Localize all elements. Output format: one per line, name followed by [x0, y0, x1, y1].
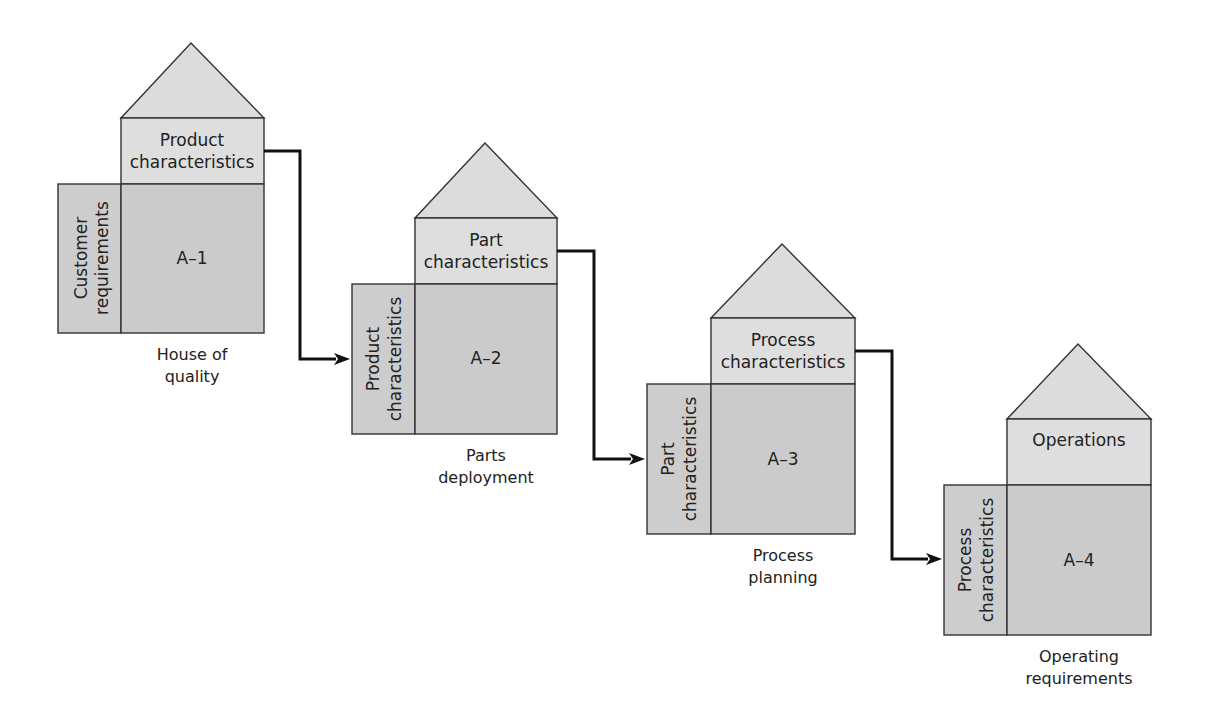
- house-a3-caption-1: Process: [753, 546, 814, 565]
- house-a2-top-label-1: Part: [469, 230, 503, 250]
- arrowhead-icon: [629, 453, 645, 465]
- connector-line: [855, 351, 928, 559]
- house-a3-side-label-1: Part: [658, 442, 678, 476]
- house-a1: Product characteristics A–1 Customer req…: [58, 43, 264, 386]
- house-a3-top-label-2: characteristics: [721, 352, 846, 372]
- house-a2-side-label-2: characteristics: [385, 297, 405, 422]
- house-a4: Operations A–4 Process characteristics O…: [944, 344, 1151, 688]
- connector-a3-a4: [855, 351, 942, 565]
- house-a4-top-box: [1007, 419, 1151, 485]
- house-a2-top-box: [415, 218, 557, 284]
- house-a4-matrix-label: A–4: [1064, 550, 1095, 570]
- house-a3: Process characteristics A–3 Part charact…: [647, 244, 855, 587]
- house-a1-caption-1: House of: [157, 345, 228, 364]
- house-a1-top-label-2: characteristics: [130, 152, 255, 172]
- house-a2-top-label-2: characteristics: [424, 252, 549, 272]
- house-a1-roof: [121, 43, 264, 118]
- arrowhead-icon: [926, 553, 942, 565]
- house-a2-caption-1: Parts: [466, 446, 506, 465]
- house-a1-matrix-label: A–1: [177, 248, 208, 268]
- house-a3-side-label-2: characteristics: [680, 397, 700, 522]
- house-a2: Part characteristics A–2 Product charact…: [352, 143, 557, 487]
- house-a1-top-box: [121, 118, 264, 184]
- qfd-diagram: Product characteristics A–1 Customer req…: [0, 0, 1210, 719]
- connector-a2-a3: [557, 251, 645, 465]
- house-a2-roof: [415, 143, 557, 218]
- house-a4-side-label-1: Process: [955, 528, 975, 593]
- house-a3-caption-2: planning: [748, 568, 817, 587]
- house-a2-side-box: [352, 284, 415, 434]
- house-a2-caption-2: deployment: [438, 468, 534, 487]
- arrowhead-icon: [334, 353, 350, 365]
- house-a3-side-box: [647, 384, 711, 534]
- connector-line: [264, 151, 336, 359]
- house-a4-caption-2: requirements: [1025, 669, 1132, 688]
- house-a4-side-label-2: characteristics: [977, 498, 997, 623]
- house-a1-side-label-1: Customer: [71, 217, 91, 300]
- house-a4-roof: [1007, 344, 1151, 419]
- house-a3-matrix-label: A–3: [768, 449, 799, 469]
- connector-line: [557, 251, 631, 459]
- house-a2-side-label-1: Product: [363, 326, 383, 391]
- house-a1-top-label-1: Product: [160, 130, 225, 150]
- house-a1-caption-2: quality: [165, 367, 220, 386]
- house-a3-top-label-1: Process: [751, 330, 816, 350]
- house-a4-side-box: [944, 485, 1007, 635]
- house-a4-caption-1: Operating: [1039, 647, 1119, 666]
- house-a1-side-label-2: requirements: [92, 201, 112, 315]
- house-a2-matrix-label: A–2: [471, 348, 502, 368]
- house-a3-top-box: [711, 318, 855, 384]
- house-a4-top-label-1: Operations: [1032, 430, 1126, 450]
- house-a3-roof: [711, 244, 855, 318]
- connector-a1-a2: [264, 151, 350, 365]
